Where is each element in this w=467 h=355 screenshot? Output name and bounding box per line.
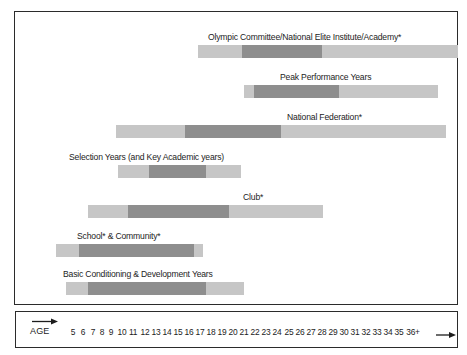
axis-tick: 20 [229,326,238,338]
arrow-right-icon [436,331,456,339]
bar-label: Selection Years (and Key Academic years) [69,152,224,163]
axis-tick: 15 [174,326,183,338]
range-bar [116,125,446,138]
age-axis-frame: AGE 567891011121314151617181920212223242… [15,311,458,348]
axis-tick: 14 [163,326,172,338]
axis-tick-labels: 5678910111213141516171819202122232425262… [57,326,453,340]
chart-row: National Federation* [15,112,457,152]
axis-tick: 10 [118,326,127,338]
axis-tick: 24 [273,326,282,338]
range-bar [56,244,203,257]
axis-tick: 34 [384,326,393,338]
axis-tick: 33 [373,326,382,338]
axis-tick: 22 [251,326,260,338]
axis-tick: 25 [285,326,294,338]
chart-row: School* & Community* [15,231,457,271]
axis-tick: 11 [129,326,137,338]
chart-plot-frame: Olympic Committee/National Elite Institu… [14,11,458,305]
range-bar-core-segment [128,205,229,218]
range-bar [118,165,241,178]
chart-row: Club* [15,192,457,232]
axis-tick: 21 [240,326,249,338]
axis-tick: 19 [218,326,227,338]
axis-tick: 26 [296,326,305,338]
range-bar-core-segment [88,282,206,295]
bar-label: Club* [243,192,263,203]
range-bar-core-segment [149,165,206,178]
axis-tick: 7 [91,326,95,338]
axis-tick: 8 [100,326,104,338]
bar-label: Peak Performance Years [280,72,371,83]
range-bar [244,85,438,98]
axis-tick: 32 [362,326,371,338]
axis-tick: 16 [185,326,194,338]
range-bar [198,45,458,58]
chart-row: Olympic Committee/National Elite Institu… [15,32,457,72]
bar-label: Basic Conditioning & Development Years [63,269,213,280]
axis-tick: 12 [141,326,150,338]
bar-label: Olympic Committee/National Elite Institu… [208,32,401,43]
chart-row: Peak Performance Years [15,72,457,112]
range-bar [88,205,323,218]
axis-tick: 29 [329,326,338,338]
axis-tick: 13 [152,326,161,338]
bar-label: National Federation* [287,112,362,123]
axis-tick: 5 [71,326,75,338]
chart-row: Basic Conditioning & Development Years [15,269,457,309]
axis-tick: 17 [196,326,205,338]
axis-tick: 27 [307,326,316,338]
arrow-right-icon [32,317,58,326]
axis-tick: 28 [318,326,327,338]
axis-tick: 9 [109,326,113,338]
axis-tick: 30 [340,326,349,338]
axis-tick: 31 [351,326,360,338]
chart-image: Olympic Committee/National Elite Institu… [0,0,467,355]
range-bar-core-segment [254,85,339,98]
axis-tick: 23 [262,326,271,338]
range-bar-core-segment [185,125,281,138]
axis-tick: 6 [81,326,85,338]
axis-tick: 18 [207,326,216,338]
axis-tick: 35 [395,326,404,338]
range-bar-core-segment [79,244,194,257]
axis-tick: 36+ [406,326,419,338]
range-bar [66,282,244,295]
bar-label: School* & Community* [77,231,161,242]
range-bar-core-segment [242,45,322,58]
axis-label-age: AGE [30,326,50,336]
chart-row: Selection Years (and Key Academic years) [15,152,457,192]
